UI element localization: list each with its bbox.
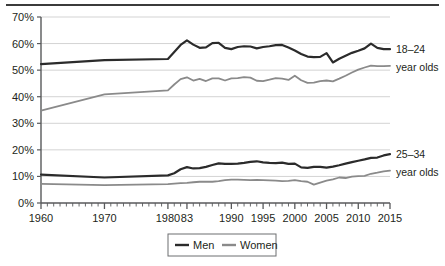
legend-label-women: Women bbox=[240, 239, 278, 251]
annotation-25-34-line1: 25–34 bbox=[396, 148, 425, 160]
y-axis-tick-label: 50% bbox=[12, 64, 34, 76]
x-axis-tick-label: 1980 bbox=[156, 212, 180, 224]
x-axis-tick-label: 1990 bbox=[219, 212, 243, 224]
legend-label-men: Men bbox=[193, 239, 214, 251]
top-divider-rule bbox=[6, 4, 439, 6]
data-series-lines bbox=[41, 40, 390, 185]
annotation-25-34-line2: year olds bbox=[396, 166, 439, 178]
series-line-women-18-24 bbox=[41, 66, 390, 111]
x-axis-tick-label: 83 bbox=[181, 212, 193, 224]
y-axis-tick-labels: 0%10%20%30%40%50%60%70% bbox=[12, 11, 34, 209]
x-axis-tick-label: 1970 bbox=[92, 212, 116, 224]
chart-legend: Men Women bbox=[168, 234, 278, 256]
y-axis-tick-label: 70% bbox=[12, 11, 34, 23]
y-axis-tick-label: 40% bbox=[12, 91, 34, 103]
x-axis-tick-label: 2000 bbox=[283, 212, 307, 224]
y-axis-tick-label: 10% bbox=[12, 170, 34, 182]
annotation-18-24-line2: year olds bbox=[396, 61, 439, 73]
series-line-men-25-34 bbox=[41, 154, 390, 177]
annotation-18-24-year-olds: 18–24 year olds bbox=[396, 43, 439, 73]
annotation-25-34-year-olds: 25–34 year olds bbox=[396, 148, 439, 178]
x-axis-tick-label: 2015 bbox=[378, 212, 402, 224]
x-axis-tick-label: 1995 bbox=[251, 212, 275, 224]
x-axis-tick-labels: 19601970198083199019952000200520102015 bbox=[29, 212, 402, 224]
x-axis-tick-label: 1960 bbox=[29, 212, 53, 224]
y-axis-tick-label: 20% bbox=[12, 144, 34, 156]
line-chart-canvas: 0%10%20%30%40%50%60%70% 1960197019808319… bbox=[0, 0, 445, 266]
x-axis-ticks bbox=[41, 203, 390, 209]
y-axis-tick-label: 0% bbox=[18, 197, 34, 209]
y-axis-tick-label: 60% bbox=[12, 38, 34, 50]
x-axis-tick-label: 2005 bbox=[314, 212, 338, 224]
chart-figure: 0%10%20%30%40%50%60%70% 1960197019808319… bbox=[0, 0, 445, 266]
y-axis-tick-label: 30% bbox=[12, 117, 34, 129]
x-axis-tick-label: 2010 bbox=[346, 212, 370, 224]
annotation-18-24-line1: 18–24 bbox=[396, 43, 425, 55]
